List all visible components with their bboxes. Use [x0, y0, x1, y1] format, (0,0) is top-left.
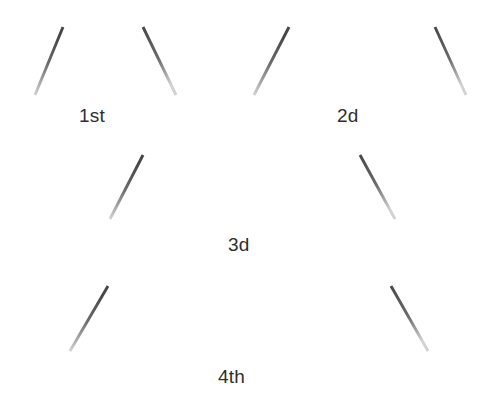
figure-4-left-leg	[70, 286, 108, 351]
figure-4-right-leg	[391, 286, 428, 351]
figure-label-3: 3d	[228, 234, 250, 256]
trapezoid-pattern-canvas	[0, 0, 486, 402]
figure-1-right-leg	[143, 27, 176, 95]
figure-2-left-leg	[254, 27, 289, 95]
figures-group	[35, 27, 466, 351]
figure-2-right-leg	[435, 27, 466, 95]
figure-label-4: 4th	[218, 366, 245, 388]
figure-1-left-leg	[35, 27, 63, 95]
figure-label-2: 2d	[337, 105, 359, 127]
worksheet-page: g 1st 2d 3d 4th	[0, 0, 486, 402]
figure-label-1: 1st	[79, 105, 105, 127]
figure-3-right-leg	[360, 155, 395, 219]
figure-3-left-leg	[110, 155, 143, 219]
